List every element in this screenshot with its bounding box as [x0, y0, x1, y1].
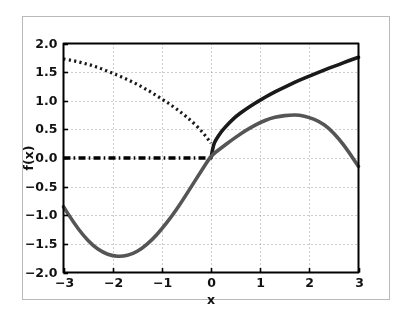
- chart-plot-area: [0, 0, 411, 318]
